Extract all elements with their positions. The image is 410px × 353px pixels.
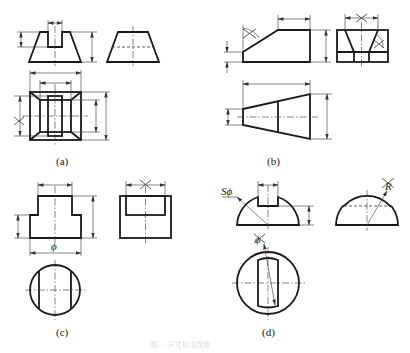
d-side-view: R [336, 178, 398, 231]
subfigure-a [14, 20, 159, 146]
sphere-diameter-label: Sϕ [221, 185, 233, 197]
radius-label: R [384, 180, 392, 192]
caption-d: (d) [262, 326, 275, 338]
b-front-view [224, 15, 331, 73]
subfigure-b [224, 14, 388, 139]
wrong-mark-icon [243, 29, 256, 38]
b-side-view [337, 14, 388, 68]
a-front-view [17, 20, 97, 66]
subfigure-c: ϕ [14, 180, 171, 320]
diameter-symbol: ϕ [51, 240, 57, 252]
c-top-view [25, 260, 86, 320]
figure-canvas: ϕ [0, 0, 410, 353]
b-top-view [225, 80, 332, 139]
caption-a: (a) [56, 155, 68, 167]
d-top-view: ϕ [232, 233, 305, 320]
caption-c: (c) [56, 326, 68, 338]
caption-b: (b) [267, 155, 280, 167]
wrong-mark-icon [14, 117, 24, 125]
wrong-mark-icon [374, 40, 384, 48]
d-front-view: Sϕ [221, 181, 314, 231]
technical-drawing: ϕ [0, 0, 410, 353]
figure-footer-caption: 图 — 尺寸标注改错 [150, 339, 210, 349]
c-side-view [120, 180, 171, 244]
subfigure-d: Sϕ R ϕ [221, 178, 398, 320]
c-front-view: ϕ [14, 182, 97, 256]
a-side-view [107, 26, 159, 66]
a-top-view [14, 70, 110, 146]
